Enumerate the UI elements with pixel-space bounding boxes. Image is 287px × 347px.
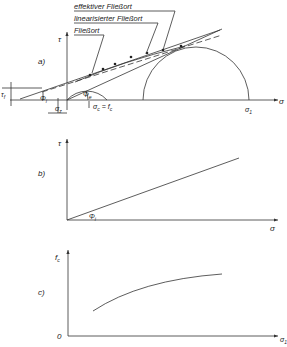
leader-yield bbox=[92, 35, 104, 73]
fc-curve bbox=[93, 274, 222, 311]
measured-points bbox=[89, 45, 183, 77]
panel-a-label: a) bbox=[38, 57, 45, 66]
panel-b-label: b) bbox=[38, 169, 45, 178]
phi-e-label: Φe bbox=[83, 91, 92, 100]
leader-linearized bbox=[146, 23, 158, 54]
panel-c-label: c) bbox=[38, 288, 45, 297]
tau-label-b: τ bbox=[58, 139, 62, 148]
linearized-yield-locus bbox=[42, 35, 222, 92]
legend-effective: effektiver Fließort bbox=[74, 2, 133, 11]
tau-label-a: τ bbox=[58, 35, 62, 44]
fc-label: fc bbox=[55, 253, 60, 263]
tau-f-label: τf bbox=[1, 91, 6, 100]
phi-i-label: Φi bbox=[40, 95, 48, 104]
legend-yield: Fließort bbox=[74, 26, 100, 35]
leader-effective bbox=[163, 11, 175, 50]
yield-line-b bbox=[67, 158, 239, 220]
panel-b: τ σ b) Φi bbox=[38, 139, 278, 233]
origin-label: 0 bbox=[57, 332, 62, 341]
diagram-canvas: τ σ a) effektiver Fließort linearisierte… bbox=[0, 0, 287, 347]
sigma-c-label: σc = fc bbox=[93, 103, 113, 112]
sigma-label-a: σ bbox=[279, 97, 285, 106]
sigma-1-label: σ1 bbox=[245, 106, 252, 115]
legend-linearized: linearisierter Fließort bbox=[74, 14, 143, 23]
phi-i-label-b: Φi bbox=[89, 213, 97, 222]
sigma1-label-c: σ1 bbox=[280, 336, 287, 345]
sigma-label-b: σ bbox=[270, 224, 276, 233]
effective-yield-locus bbox=[67, 29, 222, 100]
panel-c: fc σ1 0 c) bbox=[38, 250, 287, 345]
panel-a: τ σ a) effektiver Fließort linearisierte… bbox=[1, 2, 285, 115]
